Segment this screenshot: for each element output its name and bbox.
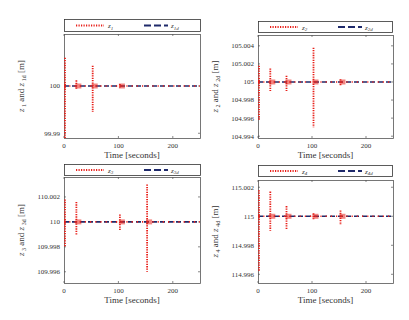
axes-frame	[65, 178, 201, 284]
x-tick-label: 100	[113, 287, 124, 295]
y-tick-label: 110	[50, 218, 61, 226]
x-tick-label: 100	[113, 142, 124, 150]
x-axis-label: Time [seconds]	[104, 150, 159, 160]
y-tick-label: 114.996	[232, 271, 255, 279]
x-axis-label: Time [seconds]	[298, 150, 353, 160]
subplot-z2: z2z2d0100200104.994104.996104.998105105.…	[210, 22, 394, 161]
subplot-z1: z1z1d010020099.99100Time [seconds]z 1 an…	[16, 20, 201, 161]
axes-frame	[259, 36, 394, 139]
axes-frame	[259, 181, 394, 284]
legend: z3z3d	[65, 165, 201, 176]
x-tick-label: 0	[62, 287, 66, 295]
x-tick-label: 0	[256, 287, 260, 295]
x-tick-label: 0	[256, 142, 260, 150]
x-tick-label: 0	[62, 142, 66, 150]
x-axis-label: Time [seconds]	[104, 295, 159, 305]
y-tick-label: 115	[244, 213, 255, 221]
y-tick-label: 99.99	[44, 130, 60, 138]
y-tick-label: 109.996	[37, 268, 60, 276]
figure: z1z1d010020099.99100Time [seconds]z 1 an…	[0, 0, 409, 320]
y-tick-label: 115.002	[232, 184, 255, 192]
x-tick-label: 100	[307, 287, 318, 295]
legend: z2z2d	[259, 22, 393, 33]
y-axis-label: z 2 and z 2d [m]	[210, 61, 221, 114]
x-tick-label: 100	[307, 142, 318, 150]
y-axis-label: z 1 and z 1d [m]	[16, 60, 27, 113]
legend: z1z1d	[65, 20, 201, 32]
x-tick-label: 200	[168, 142, 179, 150]
x-tick-label: 200	[168, 287, 179, 295]
y-tick-label: 100	[50, 82, 61, 90]
y-tick-label: 104.998	[231, 96, 254, 104]
y-tick-label: 104.994	[231, 133, 254, 141]
x-axis-label: Time [seconds]	[298, 295, 353, 305]
y-tick-label: 105	[244, 78, 255, 86]
legend: z4z4d	[259, 166, 393, 177]
y-axis-label: z 3 and z 3d [m]	[16, 204, 27, 257]
y-tick-label: 114.998	[232, 242, 255, 250]
y-tick-label: 105.002	[231, 60, 254, 68]
x-tick-label: 200	[361, 142, 372, 150]
x-tick-label: 200	[361, 287, 372, 295]
y-tick-label: 104.996	[231, 115, 254, 123]
subplot-z3: z3z3d0100200109.996109.998110110.002Time…	[16, 165, 201, 306]
y-tick-label: 105.004	[231, 42, 254, 50]
y-tick-label: 109.998	[37, 243, 60, 251]
subplot-z4: z4z4d0100200114.996114.998115115.002Time…	[210, 166, 394, 306]
y-tick-label: 110.002	[38, 193, 61, 201]
y-axis-label: z 4 and z 4d [m]	[210, 206, 221, 259]
